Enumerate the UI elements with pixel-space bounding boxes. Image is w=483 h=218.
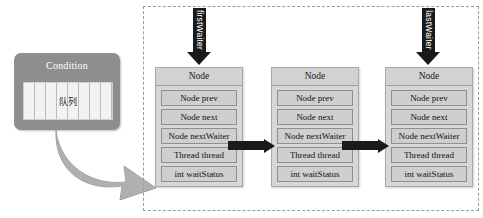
queue-cell: [24, 83, 35, 119]
node-title: Node: [272, 68, 358, 86]
arrow-head: [187, 52, 211, 65]
node-field-prev: Node prev: [277, 90, 353, 106]
node-field-next: Node next: [391, 109, 467, 125]
node-field-next: Node next: [161, 109, 237, 125]
node-field-thread: Thread thread: [161, 147, 237, 163]
node-field-waitstatus: int waitStatus: [161, 166, 237, 182]
queue-cell: [57, 83, 68, 119]
condition-queue-grid: 队列: [23, 82, 113, 120]
condition-title: Condition: [14, 60, 120, 71]
node-field-list: Node prev Node next Node nextWaiter Thre…: [272, 86, 358, 185]
node-field-prev: Node prev: [391, 90, 467, 106]
queue-cell: [35, 83, 46, 119]
node-box: Node Node prev Node next Node nextWaiter…: [271, 67, 359, 187]
diagram-canvas: Condition 队列 firstWaiter lastWaiter: [0, 0, 483, 218]
queue-cell: [101, 83, 112, 119]
node-field-waitstatus: int waitStatus: [277, 166, 353, 182]
queue-cell: [46, 83, 57, 119]
arrow-shaft: lastWaiter: [422, 8, 435, 52]
node-box: Node Node prev Node next Node nextWaiter…: [385, 67, 473, 187]
arrow-shaft: [342, 141, 378, 150]
node-title: Node: [156, 68, 242, 86]
queue-cell: [68, 83, 79, 119]
node-field-nextwaiter: Node nextWaiter: [391, 128, 467, 144]
pointer-label-lastwaiter: lastWaiter: [424, 10, 434, 49]
arrow-head: [378, 139, 389, 153]
node-field-next: Node next: [277, 109, 353, 125]
condition-block: Condition 队列: [14, 53, 120, 130]
node-field-nextwaiter: Node nextWaiter: [161, 128, 237, 144]
pointer-arrow-lastwaiter: lastWaiter: [422, 8, 435, 65]
node-field-thread: Thread thread: [391, 147, 467, 163]
pointer-arrow-firstwaiter: firstWaiter: [193, 8, 206, 65]
node-title: Node: [386, 68, 472, 86]
arrow-shaft: [228, 141, 264, 150]
queue-cell: [79, 83, 90, 119]
link-arrow-node1-node2: [342, 139, 389, 152]
node-box: Node Node prev Node next Node nextWaiter…: [155, 67, 243, 187]
arrow-shaft: firstWaiter: [193, 8, 206, 52]
queue-cell: [90, 83, 101, 119]
node-field-list: Node prev Node next Node nextWaiter Thre…: [156, 86, 242, 185]
arrow-head: [264, 139, 275, 153]
link-arrow-node0-node1: [228, 139, 275, 152]
node-field-waitstatus: int waitStatus: [391, 166, 467, 182]
pointer-label-firstwaiter: firstWaiter: [195, 10, 205, 50]
node-field-list: Node prev Node next Node nextWaiter Thre…: [386, 86, 472, 185]
node-field-prev: Node prev: [161, 90, 237, 106]
arrow-head: [416, 52, 440, 65]
